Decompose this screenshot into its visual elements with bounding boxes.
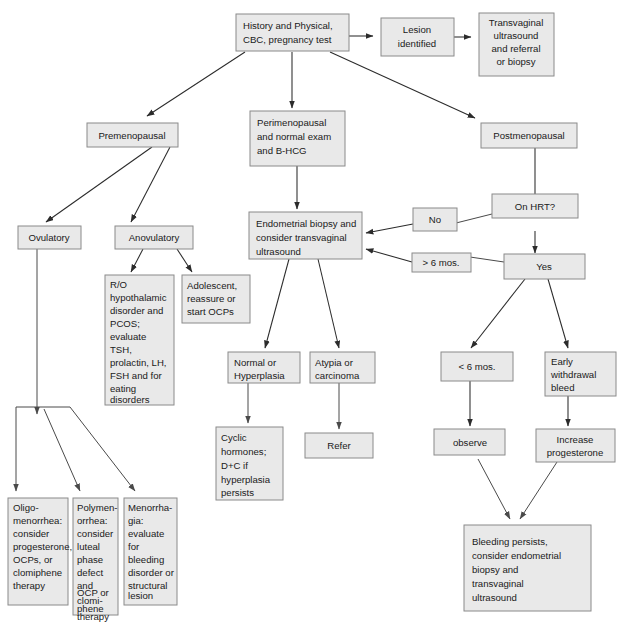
edge-endometrial-normal: [265, 259, 289, 348]
node-transvaginal-line-1: ultrasound: [494, 30, 539, 41]
node-cyclic-line-3: hyperplasia: [221, 474, 271, 485]
edge-anovulatory-adolescent: [177, 249, 192, 272]
edge-history-postmenopausal: [330, 52, 475, 118]
node-ovulatory[interactable]: Ovulatory: [18, 226, 81, 249]
node-lessmos[interactable]: < 6 mos.: [441, 352, 513, 381]
node-postmenopausal[interactable]: Postmenopausal: [481, 123, 577, 148]
node-adolescent[interactable]: Adolescent, reassure or start OCPs: [182, 275, 250, 323]
node-normal-line-1: Hyperplasia: [234, 370, 285, 381]
node-early[interactable]: Early withdrawal bleed: [545, 352, 616, 396]
node-premenopausal-line-0: Premenopausal: [98, 130, 165, 141]
node-transvaginal-line-2: and referral: [491, 43, 540, 54]
edge-yes-sixmos: [470, 257, 504, 262]
node-normal[interactable]: Normal or Hyperplasia: [228, 352, 300, 383]
node-perimenopausal-line-2: and B-HCG: [257, 145, 307, 156]
node-oligo-line-5: clomiphene: [13, 567, 62, 578]
edge-ovulatory-menorrhagia: [70, 407, 135, 491]
node-ro-line-4: evaluate: [110, 331, 146, 342]
node-lesion-line-1: identified: [398, 38, 436, 49]
node-lessmos-line-0: < 6 mos.: [458, 361, 495, 372]
node-poly-line-4: phase: [77, 554, 103, 565]
node-bleeding-line-0: Bleeding persists,: [472, 536, 548, 547]
node-perimenopausal-line-0: Perimenopausal: [257, 117, 326, 128]
node-yes-line-0: Yes: [536, 261, 552, 272]
node-cyclic[interactable]: Cyclic hormones; D+C if hyperplasia pers…: [216, 427, 283, 500]
node-ro-line-1: hypothalamic: [110, 292, 167, 303]
edge-endometrial-atypia: [318, 259, 339, 348]
node-normal-line-0: Normal or: [234, 357, 277, 368]
node-oligo-line-3: progesterone,: [13, 541, 72, 552]
node-adolescent-line-2: start OCPs: [187, 306, 234, 317]
node-increase[interactable]: Increase progesterone: [536, 429, 615, 462]
edge-sixmos-endometrial: [366, 249, 412, 262]
node-transvaginal[interactable]: Transvaginal ultrasound and referral or …: [479, 13, 554, 76]
flowchart-svg: History and Physical, CBC, pregnancy tes…: [0, 0, 623, 630]
edge-onhrt-no: [456, 214, 492, 223]
node-no-line-0: No: [429, 214, 441, 225]
node-menorrhagia-line-3: for: [128, 541, 140, 552]
node-anovulatory-line-0: Anovulatory: [129, 232, 180, 243]
node-poly-line-1: orrhea:: [77, 515, 107, 526]
node-ro-line-3: PCOS;: [110, 318, 140, 329]
node-cyclic-line-2: D+C if: [221, 460, 248, 471]
node-oligo-line-1: menorrhea:: [13, 515, 62, 526]
node-adolescent-line-1: reassure or: [187, 293, 236, 304]
node-early-line-2: bleed: [551, 382, 574, 393]
node-cyclic-line-0: Cyclic: [221, 432, 247, 443]
node-atypia-line-1: carcinoma: [315, 370, 360, 381]
node-refer-line-0: Refer: [327, 440, 351, 451]
node-oligo-line-4: OCPs, or: [13, 554, 53, 565]
node-perimenopausal[interactable]: Perimenopausal and normal exam and B-HCG: [250, 111, 345, 166]
node-perimenopausal-line-1: and normal exam: [257, 131, 331, 142]
node-menorrhagia-line-7: lesion: [128, 590, 153, 601]
node-increase-line-1: progesterone: [547, 447, 604, 458]
node-sixmos-line-0: > 6 mos.: [422, 257, 459, 268]
node-history-line-0: History and Physical,: [243, 20, 333, 31]
node-ro-line-5: TSH,: [110, 344, 132, 355]
node-ro-line-0: R/O: [110, 279, 127, 290]
node-observe[interactable]: observe: [434, 429, 505, 455]
node-history[interactable]: History and Physical, CBC, pregnancy tes…: [236, 14, 349, 51]
node-lesion[interactable]: Lesion identified: [381, 18, 454, 56]
node-endometrial[interactable]: Endometrial biopsy and consider transvag…: [249, 212, 362, 259]
node-cyclic-line-1: hormones;: [221, 446, 266, 457]
node-onhrt[interactable]: On HRT?: [492, 194, 578, 218]
edge-no-endometrial: [366, 224, 413, 233]
node-oligo-line-6: therapy: [13, 580, 45, 591]
node-oligo-line-0: Oligo-: [13, 502, 39, 513]
edge-history-premenopausal: [147, 52, 245, 116]
node-ro-line-2: disorder and: [110, 305, 163, 316]
node-endometrial-line-0: Endometrial biopsy and: [256, 218, 356, 229]
node-refer[interactable]: Refer: [305, 433, 373, 458]
node-ro-line-6: prolactin, LH,: [110, 357, 167, 368]
node-anovulatory[interactable]: Anovulatory: [115, 226, 193, 249]
node-poly[interactable]: Polymen- orrhea: consider luteal phase d…: [73, 498, 118, 622]
node-history-line-1: CBC, pregnancy test: [243, 34, 332, 45]
node-ro[interactable]: R/O hypothalamic disorder and PCOS; eval…: [105, 275, 174, 405]
edge-increase-bleeding: [520, 462, 557, 519]
node-atypia[interactable]: Atypia or carcinoma: [310, 352, 375, 383]
node-ro-line-8: eating: [110, 383, 136, 394]
node-endometrial-line-1: consider transvaginal: [256, 232, 347, 243]
node-yes[interactable]: Yes: [504, 254, 585, 279]
node-onhrt-line-0: On HRT?: [515, 201, 555, 212]
edge-observe-bleeding: [478, 459, 510, 519]
flowchart-canvas: History and Physical, CBC, pregnancy tes…: [0, 0, 623, 630]
node-ro-line-9: disorders: [110, 394, 150, 405]
edge-yes-lessmos: [471, 279, 525, 348]
node-bleeding[interactable]: Bleeding persists, consider endometrial …: [464, 525, 591, 611]
node-sixmos[interactable]: > 6 mos.: [412, 253, 471, 272]
edge-anovulatory-ro: [131, 249, 143, 272]
node-premenopausal[interactable]: Premenopausal: [87, 123, 178, 147]
node-poly-line-5: defect: [77, 567, 103, 578]
node-observe-line-0: observe: [453, 437, 487, 448]
node-cyclic-line-4: persists: [221, 487, 254, 498]
node-menorrhagia[interactable]: Menorrha- gia: evaluate for bleeding dis…: [124, 498, 177, 605]
node-oligo[interactable]: Oligo- menorrhea: consider progesterone,…: [8, 498, 72, 605]
node-poly-line-3: luteal: [77, 541, 100, 552]
edge-premenopausal-ovulatory: [46, 147, 152, 222]
node-no[interactable]: No: [413, 208, 457, 231]
node-postmenopausal-line-0: Postmenopausal: [493, 130, 564, 141]
node-poly-line-2: consider: [77, 528, 114, 539]
node-endometrial-line-2: ultrasound: [256, 246, 301, 257]
